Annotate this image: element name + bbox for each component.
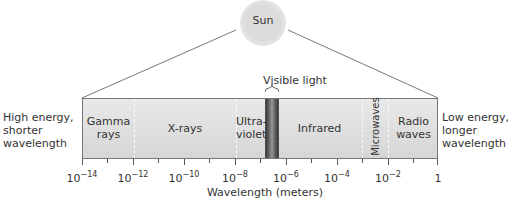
axis-tick [337,159,338,165]
low-energy-note: Low energy, longer wavelength [442,111,509,150]
axis-tick [184,159,185,165]
band-infrared: Infrared [277,122,362,135]
visible-light-label: Visible light [255,74,335,87]
tick-label: 10−4 [317,170,357,185]
axis-tick-minor [260,159,261,163]
tick-label: 10−8 [215,170,255,185]
band-gamma-rays: Gammarays [83,115,134,141]
band-radio-waves: Radiowaves [388,115,439,141]
tick-label: 10−6 [266,170,306,185]
axis-tick [286,159,287,165]
high-energy-note: High energy, shorter wavelength [3,111,74,150]
axis-tick [388,159,389,165]
band-microwaves: Microwaves [370,94,381,160]
divider [362,99,363,158]
tick-label: 10−14 [62,170,102,185]
axis-tick-minor [311,159,312,163]
axis-tick [235,159,236,165]
spectrum-band: Gammarays X-rays Ultra-violet Infrared M… [82,98,438,159]
axis-title: Wavelength (meters) [205,186,325,199]
axis-tick [133,159,134,165]
axis-tick [82,159,83,165]
tick-label: 10−12 [113,170,153,185]
axis-tick-minor [413,159,414,163]
axis-tick-minor [209,159,210,163]
tick-label: 10−2 [368,170,408,185]
band-x-rays: X-rays [134,122,236,135]
axis-tick-minor [158,159,159,163]
axis-tick [437,159,438,165]
tick-label: 1 [418,170,458,185]
band-ultraviolet: Ultra-violet [236,115,265,141]
axis-tick-minor [107,159,108,163]
sun-label: Sun [240,14,286,27]
axis-tick-minor [362,159,363,163]
tick-label: 10−10 [164,170,204,185]
